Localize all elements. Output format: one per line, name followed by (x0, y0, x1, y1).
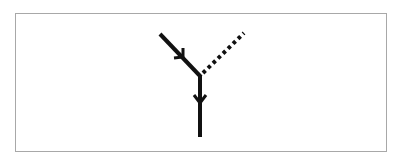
feynman-diagram (0, 0, 406, 162)
outgoing-fermion-line (194, 75, 206, 137)
incoming-fermion-line (160, 34, 201, 77)
scalar-boson-line (203, 33, 244, 73)
